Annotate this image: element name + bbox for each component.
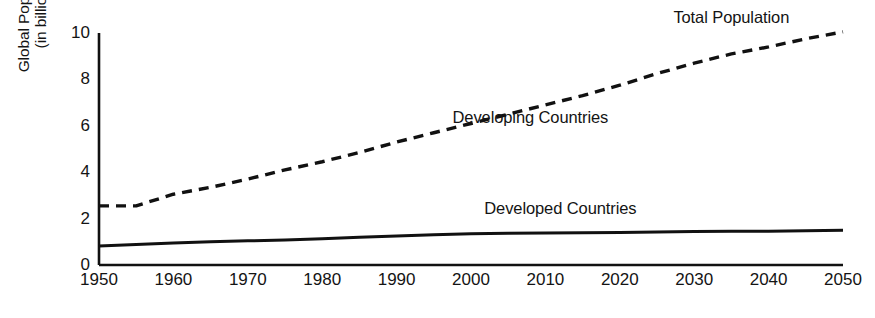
y-axis-tick-label: 2 bbox=[81, 209, 90, 229]
series-annotation-developed-countries: Developed Countries bbox=[484, 199, 636, 218]
x-axis-tick-label: 2030 bbox=[654, 270, 734, 290]
x-axis-tick-label: 2020 bbox=[580, 270, 660, 290]
series-annotation-total-population: Total Population bbox=[673, 8, 789, 27]
x-axis-tick-label: 2040 bbox=[729, 270, 809, 290]
series-annotation-developing-countries: Developing Countries bbox=[453, 108, 609, 127]
x-axis-tick-label: 1950 bbox=[59, 270, 139, 290]
y-axis-tick-label: 4 bbox=[81, 162, 90, 182]
series-line-developed-countries bbox=[99, 230, 843, 246]
x-axis-tick-label: 2050 bbox=[803, 270, 875, 290]
y-axis-tick-label: 10 bbox=[71, 23, 90, 43]
x-axis-tick-label: 1970 bbox=[208, 270, 288, 290]
x-axis-tick-label: 1980 bbox=[282, 270, 362, 290]
y-axis-tick-label: 8 bbox=[81, 69, 90, 89]
x-axis-tick-label: 1990 bbox=[357, 270, 437, 290]
chart-container: Global Population (in billions) 02468101… bbox=[0, 0, 875, 318]
x-axis-tick-label: 2010 bbox=[505, 270, 585, 290]
x-axis-tick-label: 2000 bbox=[431, 270, 511, 290]
x-axis-tick-label: 1960 bbox=[133, 270, 213, 290]
y-axis-tick-label: 6 bbox=[81, 116, 90, 136]
